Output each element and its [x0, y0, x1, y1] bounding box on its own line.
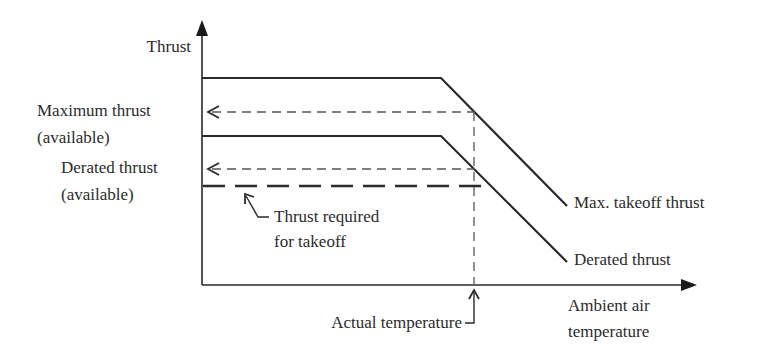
derated-thrust-label-line1: Derated thrust	[61, 158, 158, 178]
derated-thrust-label-line2: (available)	[61, 185, 134, 205]
actual-temperature-label: Actual temperature	[331, 313, 462, 333]
y-axis-label: Thrust	[147, 37, 191, 57]
thrust-required-label-line2: for takeoff	[274, 232, 346, 252]
x-axis-label-line1: Ambient air	[568, 296, 650, 316]
max-thrust-label-line2: (available)	[37, 128, 110, 148]
x-axis-arrow-icon	[681, 279, 697, 291]
y-axis-arrow-icon	[196, 20, 208, 36]
x-axis-label-line2: temperature	[568, 322, 649, 342]
derated-thrust-curve-label: Derated thrust	[574, 250, 671, 270]
thrust-required-leader	[246, 196, 269, 217]
derated-thrust-curve	[202, 136, 567, 262]
max-takeoff-thrust-label: Max. takeoff thrust	[574, 193, 704, 213]
thrust-required-label-line1: Thrust required	[274, 207, 379, 227]
max-thrust-label-line1: Maximum thrust	[37, 101, 151, 121]
